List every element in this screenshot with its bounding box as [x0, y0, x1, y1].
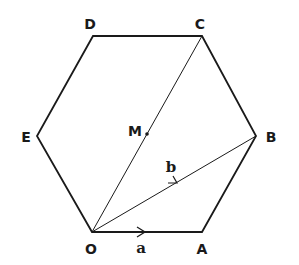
hexagon-diagram: O A B C D E M a b — [0, 0, 299, 265]
point-M-dot — [145, 132, 149, 136]
label-B: B — [266, 129, 277, 145]
vector-b-line — [92, 136, 256, 232]
diagram-svg: O A B C D E M a b — [0, 0, 299, 265]
label-vector-b: b — [166, 158, 177, 176]
label-E: E — [21, 129, 31, 145]
label-D: D — [84, 16, 96, 32]
label-vector-a: a — [136, 239, 146, 257]
label-C: C — [195, 16, 205, 32]
label-O: O — [85, 241, 97, 257]
vector-b-arrowhead-icon — [168, 176, 177, 183]
label-M: M — [128, 123, 142, 139]
label-A: A — [197, 241, 208, 257]
